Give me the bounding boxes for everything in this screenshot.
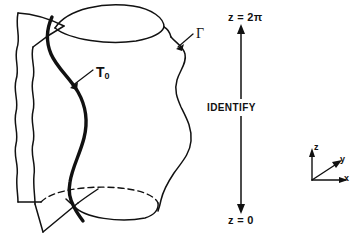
identify-label: IDENTIFY: [205, 101, 258, 115]
t0-label-subscript: 0: [105, 71, 110, 81]
t0-label-base: T: [96, 64, 105, 80]
t0-leader-line: [72, 70, 93, 86]
axis-y-line: [312, 163, 338, 180]
axis-y-label: y: [340, 155, 345, 164]
top-rim-back-arc: [55, 5, 164, 28]
tail-left-stroke: [35, 204, 43, 232]
top-rim-front-arc: [55, 27, 164, 42]
gamma-leader-line: [178, 34, 193, 47]
figure-canvas: Γ T0 z = 2π z = 0 IDENTIFY z y x: [0, 0, 354, 243]
identify-arrowhead-down: [237, 204, 245, 214]
rim-right-notch: [164, 27, 171, 37]
gamma-boundary-curve: [158, 37, 191, 211]
bottom-ellipse-back-dashed: [41, 187, 158, 203]
tail-extension-stroke: [78, 189, 98, 203]
diagram-svg: [0, 0, 354, 243]
z-top-label: z = 2π: [228, 12, 262, 23]
bottom-ellipse-front-solid: [74, 203, 158, 220]
t0-transversal-curve: [47, 17, 86, 221]
flap-inner-wavy-edge: [32, 47, 35, 204]
t0-label: T0: [96, 65, 110, 79]
identify-arrowhead-up: [237, 24, 245, 34]
gamma-label: Γ: [196, 27, 204, 41]
axis-z-label: z: [314, 143, 319, 152]
axis-x-label: x: [344, 174, 349, 183]
flap-outer-wavy-edge: [15, 13, 18, 202]
z-bottom-label: z = 0: [228, 215, 254, 226]
